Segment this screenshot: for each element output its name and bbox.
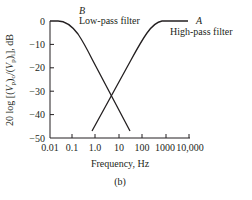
svg-text:−10: −10 <box>29 39 45 50</box>
x-ticks <box>72 134 189 138</box>
svg-text:100: 100 <box>135 142 150 153</box>
high-pass-label: High-pass filter <box>170 26 233 37</box>
svg-text:−20: −20 <box>29 62 45 73</box>
low-pass-label: Low-pass filter <box>79 15 140 26</box>
svg-text:−30: −30 <box>29 86 45 97</box>
filter-response-chart: 0 −10 −20 −30 −40 −50 0.01 0.1 1.0 10 10… <box>0 0 252 200</box>
svg-text:0.01: 0.01 <box>41 142 59 153</box>
y-ticks <box>50 44 54 114</box>
svg-text:−40: −40 <box>29 109 45 120</box>
caption: (b) <box>114 176 126 188</box>
y-tick-labels: 0 −10 −20 −30 −40 −50 <box>29 16 45 144</box>
svg-text:1000: 1000 <box>155 142 175 153</box>
low-pass-curve <box>50 21 130 131</box>
x-tick-labels: 0.01 0.1 1.0 10 100 1000 10,000 <box>41 142 204 153</box>
svg-text:0: 0 <box>40 16 45 27</box>
svg-text:0.1: 0.1 <box>66 142 79 153</box>
svg-text:10: 10 <box>114 142 124 153</box>
x-axis-title: Frequency, Hz <box>91 158 150 169</box>
y-axis-title: 20 log [(Vp)o/(Vp)i], dB <box>4 34 17 126</box>
svg-text:10,000: 10,000 <box>176 142 204 153</box>
svg-text:1.0: 1.0 <box>89 142 102 153</box>
high-pass-letter: A <box>195 15 203 26</box>
high-pass-curve <box>92 21 188 131</box>
